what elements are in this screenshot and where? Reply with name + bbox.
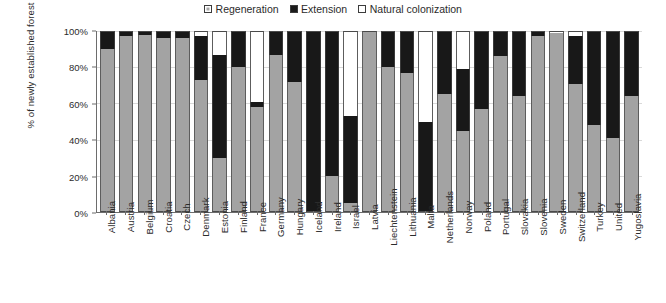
bar-segment-extension — [175, 31, 190, 38]
x-tick-label: Slovakia — [519, 199, 530, 236]
y-axis-title: % of newly established forest — [25, 0, 36, 151]
x-tick-label: Sweden — [557, 200, 568, 235]
bar-segment-regeneration — [156, 38, 171, 212]
x-label-cell: Hungary — [287, 215, 302, 303]
x-label-cell: Iceland — [306, 215, 321, 303]
x-label-cell: Switzerland — [568, 215, 583, 303]
bar-column — [456, 31, 471, 212]
bar-segment-natural-colonization — [418, 31, 433, 122]
x-label-cell: Lithuania — [399, 215, 414, 303]
bar-segment-extension — [194, 36, 209, 79]
x-tick-label: Switzerland — [576, 192, 587, 242]
bar-segment-extension — [287, 31, 302, 82]
bar-segment-natural-colonization — [456, 31, 471, 69]
bar-segment-regeneration — [231, 67, 246, 212]
x-axis-labels: AlbaniaAustriaBelgiumCroatiaCzechDenmark… — [96, 215, 642, 303]
legend-item-extension: Extension — [290, 3, 348, 15]
natural-colonization-swatch-icon — [358, 5, 366, 13]
bar-segment-regeneration — [138, 35, 153, 212]
x-label-cell: Czech — [174, 215, 189, 303]
x-tick-label: Germany — [275, 197, 286, 237]
bar-segment-regeneration — [493, 56, 508, 212]
x-label-cell: Slovenia — [531, 215, 546, 303]
x-label-cell: United — [606, 215, 621, 303]
bar-column — [512, 31, 527, 212]
x-tick-label: Latvia — [369, 204, 380, 230]
x-tick-label: France — [257, 202, 268, 232]
bar-column — [587, 31, 602, 212]
x-label-cell: Norway — [456, 215, 471, 303]
bar-segment-extension — [418, 122, 433, 213]
bar-segment-regeneration — [531, 36, 546, 212]
bar-segment-extension — [606, 31, 621, 138]
bar-column — [100, 31, 115, 212]
x-label-cell: Israel — [343, 215, 358, 303]
bar-segment-extension — [456, 69, 471, 131]
x-label-cell: Netherlands — [437, 215, 452, 303]
bar-segment-regeneration — [362, 31, 377, 212]
bar-column — [250, 31, 265, 212]
x-tick-label: Hungary — [294, 199, 305, 236]
y-tick-label: 100% — [64, 26, 88, 37]
bar-column — [624, 31, 639, 212]
bar-segment-extension — [212, 55, 227, 158]
x-tick-label: Albania — [106, 201, 117, 233]
bar-column — [156, 31, 171, 212]
bar-column — [269, 31, 284, 212]
legend-label-natural-colonization: Natural colonization — [370, 3, 462, 15]
bar-column — [493, 31, 508, 212]
bar-segment-extension — [587, 31, 602, 125]
bar-segment-extension — [231, 31, 246, 67]
plot-area — [96, 31, 642, 213]
bar-segment-extension — [381, 31, 396, 67]
x-label-cell: Yugoslavia — [625, 215, 640, 303]
bar-segment-extension — [493, 31, 508, 56]
y-tick-label: 60% — [69, 98, 88, 109]
x-tick-label: Belgium — [144, 199, 155, 234]
bar-column — [531, 31, 546, 212]
x-label-cell: Albania — [99, 215, 114, 303]
x-tick-label: Lithuania — [407, 197, 418, 236]
bar-segment-regeneration — [119, 36, 134, 212]
x-label-cell: Poland — [474, 215, 489, 303]
x-label-cell: Slovakia — [512, 215, 527, 303]
x-tick-label: Austria — [125, 202, 136, 232]
bar-segment-regeneration — [606, 138, 621, 212]
stacked-bar-chart: Regeneration Extension Natural colonizat… — [0, 0, 666, 303]
bar-segment-regeneration — [269, 55, 284, 212]
x-tick-label: Finland — [238, 201, 249, 233]
bar-column — [138, 31, 153, 212]
x-tick-label: Ireland — [332, 202, 343, 232]
bar-segment-extension — [400, 31, 415, 73]
x-tick-label: Portugal — [500, 199, 511, 235]
bar-segment-regeneration — [400, 73, 415, 212]
x-label-cell: Denmark — [193, 215, 208, 303]
bar-segment-extension — [325, 31, 340, 176]
x-label-cell: France — [249, 215, 264, 303]
x-label-cell: Liechtenstein — [381, 215, 396, 303]
x-label-cell: Finland — [230, 215, 245, 303]
bar-segment-extension — [624, 31, 639, 96]
y-axis-ticks: 0%20%40%60%80%100% — [56, 31, 92, 213]
x-label-cell: Portugal — [493, 215, 508, 303]
bar-column — [343, 31, 358, 212]
x-tick-label: Turkey — [594, 202, 605, 231]
bar-segment-regeneration — [100, 49, 115, 212]
y-tick-label: 80% — [69, 62, 88, 73]
bar-column — [474, 31, 489, 212]
x-label-cell: Austria — [118, 215, 133, 303]
x-label-cell: Germany — [268, 215, 283, 303]
bar-column — [325, 31, 340, 212]
x-tick-label: Croatia — [163, 201, 174, 232]
bar-column — [287, 31, 302, 212]
bar-column — [306, 31, 321, 212]
bar-segment-extension — [100, 31, 115, 49]
bar-segment-extension — [306, 31, 321, 212]
bar-segment-extension — [512, 31, 527, 96]
bar-series-container — [97, 31, 642, 212]
bar-segment-extension — [568, 36, 583, 83]
bar-column — [362, 31, 377, 212]
bar-column — [175, 31, 190, 212]
bar-segment-regeneration — [194, 80, 209, 212]
bar-column — [418, 31, 433, 212]
